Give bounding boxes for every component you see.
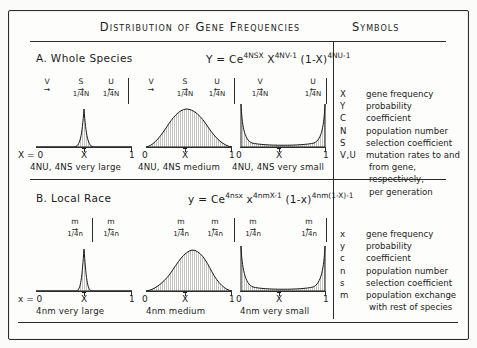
annotation-a3-vs: V → 1/4N xyxy=(240,78,280,98)
axis-label-b2-right: 1 xyxy=(229,294,235,304)
annotation-denominator: 1/4n xyxy=(98,231,124,238)
symbol-key: x xyxy=(340,228,366,240)
annotation-denominator: 1/4n xyxy=(296,231,322,238)
annotation-separator xyxy=(92,218,93,242)
annotation-denominator: 1/4N xyxy=(204,91,230,98)
caption-b2: 4nm medium xyxy=(146,306,205,316)
axis-label-a1-mid: X xyxy=(81,150,87,160)
section-b-label: B. Local Race xyxy=(36,192,111,204)
formula-lhs: y xyxy=(188,193,195,205)
symbol-definition: population number xyxy=(366,125,472,137)
plot-b1 xyxy=(36,248,132,292)
symbol-definition: probability xyxy=(366,100,472,112)
formula-e-exp: 4NSX xyxy=(244,51,264,60)
axis-b3 xyxy=(240,291,326,292)
axis-label-b1-left: x = 0 xyxy=(18,294,42,304)
symbol-definition: population number xyxy=(366,265,476,277)
axis-label-a2-mid: X xyxy=(182,150,188,160)
plot-a3 xyxy=(240,104,326,148)
symbol-key: C xyxy=(340,112,366,124)
formula-paren: (1-X) xyxy=(301,53,328,65)
annotation-denominator: 1/4N xyxy=(240,91,280,98)
curve-b1-sharp-spike xyxy=(36,248,132,292)
axis-label-a1-left: X = 0 xyxy=(18,150,43,160)
symbols-list-a: Xgene frequency Yprobability Ccoefficien… xyxy=(340,88,472,198)
axis-label-a3-right: 1 xyxy=(323,150,329,160)
axis-label-a3-left: 0 xyxy=(236,150,242,160)
curve-b3-u-shape xyxy=(240,246,326,292)
symbol-definition: gene frequency xyxy=(366,88,472,100)
plot-a2 xyxy=(146,106,232,148)
annotation-b3-m-out: m ← 1/4n xyxy=(296,218,322,238)
curve-a2-broad-hump xyxy=(146,106,232,148)
symbol-row: m population exchange with rest of speci… xyxy=(340,289,476,313)
caption-b1: 4nm very large xyxy=(36,306,104,316)
symbol-row: sselection coefficient xyxy=(340,277,476,289)
plot-b3 xyxy=(240,246,326,292)
plot-a1 xyxy=(36,106,132,148)
axis-label-b1-mid: X xyxy=(81,294,87,304)
symbol-row: Ccoefficient xyxy=(340,112,472,124)
axis-b2 xyxy=(146,291,232,292)
symbol-row: Npopulation number xyxy=(340,125,472,137)
symbol-definition: mutation rates to and from gene, respect… xyxy=(366,149,472,198)
symbol-definition: gene frequency xyxy=(366,228,476,240)
annotation-denominator: 1/4N xyxy=(172,91,198,98)
symbol-row: npopulation number xyxy=(340,265,476,277)
annotation-separator xyxy=(234,218,235,242)
annotation-separator xyxy=(326,218,327,242)
formula-paren-exp: 4NU-1 xyxy=(327,51,350,60)
plot-b2 xyxy=(146,248,232,292)
header-rule xyxy=(30,41,446,42)
symbol-row: yprobability xyxy=(340,240,476,252)
axis-label-b1-right: 1 xyxy=(129,294,135,304)
annotation-separator xyxy=(128,78,129,104)
symbol-definition: coefficient xyxy=(366,252,476,264)
formula-paren: (1-x) xyxy=(285,193,311,205)
formula-lhs: Y xyxy=(206,53,213,65)
annotation-b1-m-out: m ← 1/4n xyxy=(98,218,124,238)
annotation-separator xyxy=(234,78,235,104)
annotation-a2-s: S → 1/4N xyxy=(172,78,198,98)
annotation-a1-v: V → xyxy=(36,78,58,91)
section-b-formula: y = Ce4nsx x4nmX-1 (1-x)4nm(1-X)-1 xyxy=(188,191,354,205)
symbol-definition-line1: mutation rates to and xyxy=(366,150,460,160)
curve-a3-u-shape xyxy=(240,104,326,148)
axis-label-a2-left: 0 xyxy=(142,150,148,160)
formula-x: X xyxy=(267,53,275,65)
formula-c: C xyxy=(211,193,219,205)
symbol-definition-line2: from gene, respectively, xyxy=(366,161,472,185)
annotation-denominator: 1/4N xyxy=(98,91,124,98)
caption-a2: 4NU, 4NS medium xyxy=(138,162,220,172)
axis-label-b3-right: 1 xyxy=(323,294,329,304)
caption-b3: 4nm very small xyxy=(240,306,309,316)
formula-c: C xyxy=(229,53,237,65)
formula-eq: = xyxy=(216,53,225,65)
annotation-b1-m-in: m → 1/4n xyxy=(62,218,88,238)
formula-x-exp: 4nmX-1 xyxy=(253,191,282,200)
formula-paren-exp: 4nm(1-X)-1 xyxy=(312,191,354,200)
annotation-b3-m-in: m → 1/4n xyxy=(240,218,266,238)
symbol-key: Y xyxy=(340,100,366,112)
symbol-definition: selection coefficient xyxy=(366,277,476,289)
annotation-b2-m-in: m → 1/4n xyxy=(168,218,194,238)
symbol-key: N xyxy=(340,125,366,137)
annotation-denominator: 1/4n xyxy=(240,231,266,238)
symbols-heading: Symbols xyxy=(352,20,399,34)
annotation-a1-u: U ← 1/4N xyxy=(98,78,124,98)
annotation-a1-s: S → 1/4N xyxy=(68,78,94,98)
symbol-key: c xyxy=(340,252,366,264)
symbol-key: m xyxy=(340,289,366,301)
symbols-list-b: xgene frequency yprobability ccoefficien… xyxy=(340,228,476,313)
section-a-formula: Y = Ce4NSX X4NV-1 (1-X)4NU-1 xyxy=(206,51,350,65)
section-a-label: A. Whole Species xyxy=(36,52,133,64)
symbol-row: Xgene frequency xyxy=(340,88,472,100)
symbol-row: xgene frequency xyxy=(340,228,476,240)
axis-label-b3-mid: X xyxy=(276,294,282,304)
annotation-a2-v: V → xyxy=(140,78,162,91)
caption-a1: 4NU, 4NS very large xyxy=(30,162,121,172)
curve-b2-broad-hump xyxy=(146,248,232,292)
axis-label-a1-right: 1 xyxy=(129,150,135,160)
symbol-row: Yprobability xyxy=(340,100,472,112)
arrow-right-icon: → xyxy=(36,86,58,91)
